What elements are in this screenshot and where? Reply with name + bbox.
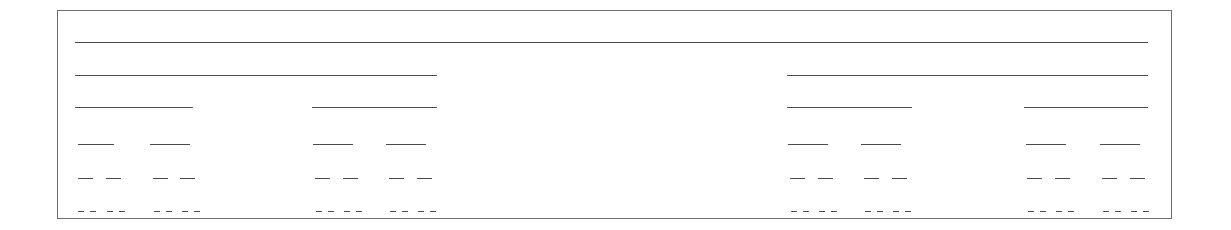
segment-r6-29	[1103, 211, 1109, 212]
segment-r5-9	[790, 178, 805, 179]
segment-r6-13	[390, 211, 396, 212]
segment-r6-32	[1143, 211, 1149, 212]
segment-r6-11	[344, 211, 350, 212]
segment-r6-2	[90, 211, 96, 212]
segment-r4-4	[386, 144, 426, 145]
figure-canvas	[0, 0, 1231, 230]
segment-r4-7	[1026, 144, 1066, 145]
segment-r5-2	[106, 178, 121, 179]
segment-r6-14	[402, 211, 408, 212]
segment-r6-5	[154, 211, 160, 212]
segment-r6-30	[1115, 211, 1121, 212]
segment-r4-1	[78, 144, 114, 145]
segment-r4-6	[861, 144, 901, 145]
segment-r6-20	[831, 211, 837, 212]
segment-r5-10	[818, 178, 833, 179]
segment-r5-3	[153, 178, 168, 179]
segment-r4-5	[788, 144, 828, 145]
segment-r1-1	[75, 42, 1148, 43]
segment-r6-1	[78, 211, 84, 212]
segment-r3-4	[1024, 107, 1148, 108]
segment-r6-6	[166, 211, 172, 212]
segment-r5-15	[1102, 178, 1117, 179]
segment-r2-2	[787, 75, 1148, 76]
segment-r6-24	[905, 211, 911, 212]
segment-r6-15	[418, 211, 424, 212]
segment-r6-22	[877, 211, 883, 212]
segment-r6-27	[1056, 211, 1062, 212]
segment-r5-8	[417, 178, 432, 179]
segment-r6-3	[107, 211, 113, 212]
segment-r6-10	[328, 211, 334, 212]
segment-r6-12	[356, 211, 362, 212]
segment-r6-18	[803, 211, 809, 212]
segment-r6-17	[791, 211, 797, 212]
segment-r4-3	[313, 144, 353, 145]
segment-r3-3	[787, 107, 912, 108]
segment-r6-23	[893, 211, 899, 212]
segment-r5-12	[892, 178, 907, 179]
segment-r6-7	[182, 211, 188, 212]
segment-r4-8	[1100, 144, 1140, 145]
segment-r6-8	[194, 211, 200, 212]
segment-r5-1	[78, 178, 93, 179]
segment-r5-14	[1055, 178, 1070, 179]
segment-r5-4	[180, 178, 195, 179]
segment-r5-7	[389, 178, 404, 179]
segment-r3-2	[312, 107, 437, 108]
segment-r6-9	[316, 211, 322, 212]
segment-r4-2	[150, 144, 190, 145]
segment-r5-5	[315, 178, 330, 179]
segment-r6-31	[1131, 211, 1137, 212]
segment-r5-6	[343, 178, 358, 179]
segment-r6-21	[865, 211, 871, 212]
segment-r6-16	[430, 211, 436, 212]
segment-r6-4	[119, 211, 125, 212]
segment-r6-26	[1040, 211, 1046, 212]
segment-r5-11	[864, 178, 879, 179]
segment-r6-19	[819, 211, 825, 212]
segment-r3-1	[75, 107, 193, 108]
segment-r6-28	[1068, 211, 1074, 212]
segment-r6-25	[1028, 211, 1034, 212]
segment-r2-1	[75, 75, 437, 76]
segment-r5-16	[1130, 178, 1145, 179]
segment-r5-13	[1027, 178, 1042, 179]
